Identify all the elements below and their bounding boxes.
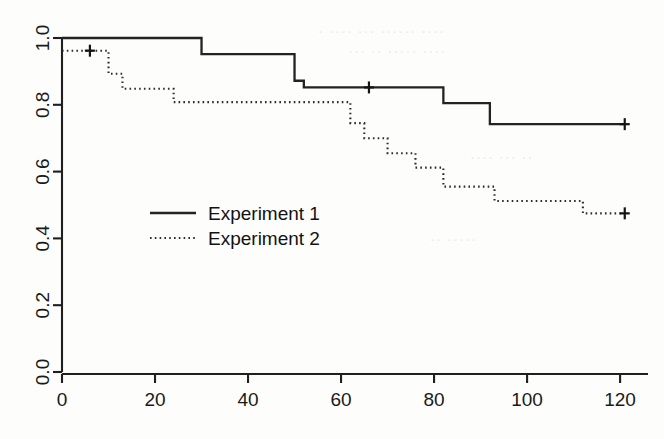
x-tick-label: 20	[144, 389, 165, 410]
y-tick-label: 1.0	[32, 25, 53, 51]
legend-label-experiment-1: Experiment 1	[208, 203, 320, 224]
chart-canvas: 0.00.20.40.60.81.0 020406080100120 Exper…	[0, 0, 664, 439]
legend-label-experiment-2: Experiment 2	[208, 228, 320, 249]
y-tick-group	[53, 38, 62, 372]
x-tick-label: 100	[511, 389, 543, 410]
chart-legend: Experiment 1 Experiment 2	[150, 203, 320, 249]
series-line-experiment-1	[62, 38, 625, 124]
x-tick-label: 60	[330, 389, 351, 410]
y-tick-label-group: 0.00.20.40.60.81.0	[32, 25, 53, 385]
x-tick-label-group: 020406080100120	[57, 389, 636, 410]
y-axis: 0.00.20.40.60.81.0	[32, 25, 62, 385]
series-line-experiment-2	[62, 51, 625, 214]
y-tick-label: 0.8	[32, 92, 53, 118]
x-tick-group	[62, 374, 620, 383]
censoring-mark-group	[85, 45, 630, 220]
x-tick-label: 40	[237, 389, 258, 410]
y-tick-label: 0.2	[32, 292, 53, 318]
x-tick-label: 80	[423, 389, 444, 410]
series-group	[62, 38, 630, 219]
x-tick-label: 0	[57, 389, 68, 410]
x-tick-label: 120	[604, 389, 636, 410]
y-tick-label: 0.6	[32, 158, 53, 184]
x-axis: 020406080100120	[57, 374, 648, 410]
y-tick-label: 0.4	[32, 225, 53, 252]
y-tick-label: 0.0	[32, 359, 53, 385]
survival-plot-figure: · ···· ··· ······ ···· ··· ·· ····· ····…	[0, 0, 664, 439]
